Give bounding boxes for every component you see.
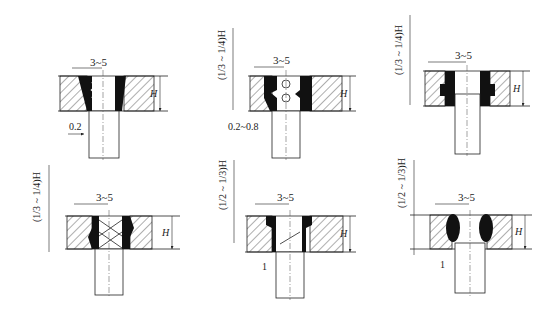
panel-d: 3~5 H (1/3 ~ 1/4)H (31, 165, 180, 297)
height-label: H (339, 88, 348, 99)
fraction-label: (1/2 ~ 1/3)H (217, 160, 229, 210)
fraction-label: (1/3 ~ 1/4)H (31, 172, 43, 222)
panel-e: 3~5 H 1 (1/2 ~ 1/3)H (217, 160, 356, 300)
gap-label: 3~5 (455, 49, 472, 61)
offset-label: 0.2 (69, 121, 82, 132)
panel-a: 3~5 H 0.2 (58, 56, 168, 160)
gap-label: 3~5 (277, 191, 294, 203)
fraction-label: (1/3 ~ 1/4)H (393, 25, 405, 75)
panel-f: 3~5 H 1 (1/2 ~ 1/3)H (396, 158, 532, 297)
panel-c: 3~5 H (1/3 ~ 1/4)H (393, 15, 530, 156)
height-label: H (514, 226, 523, 237)
height-label: H (512, 83, 521, 94)
fraction-label: (1/3 ~ 1/4)H (216, 30, 228, 80)
height-label: H (339, 228, 348, 239)
height-label: H (149, 88, 158, 99)
offset-label: 1 (440, 259, 445, 270)
offset-label: 1 (262, 261, 267, 272)
joint-diagram: 3~5 H 0.2 3~5 H 0.2~0.8 (1/3 ~ 1/4)H (0, 0, 547, 317)
gap-label: 3~5 (96, 191, 113, 203)
panel-b: 3~5 H 0.2~0.8 (1/3 ~ 1/4)H (216, 28, 356, 160)
gap-label: 3~5 (458, 191, 475, 203)
height-label: H (161, 227, 170, 238)
offset-label: 0.2~0.8 (228, 121, 258, 132)
gap-label: 3~5 (273, 54, 290, 66)
gap-label: 3~5 (90, 56, 107, 68)
fraction-label: (1/2 ~ 1/3)H (396, 158, 408, 208)
